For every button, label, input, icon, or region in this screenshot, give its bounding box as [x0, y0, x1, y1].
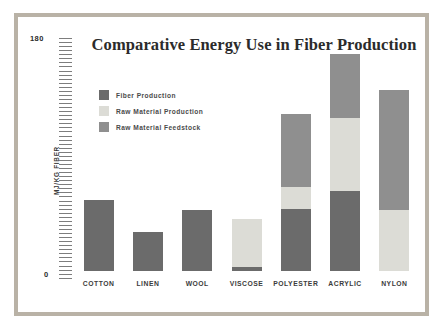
y-axis-tick	[59, 115, 72, 116]
y-axis-tick	[59, 213, 72, 214]
y-axis-tick	[59, 123, 72, 124]
y-axis-tick	[59, 136, 72, 137]
bar-segment	[330, 191, 360, 271]
y-axis-tick	[59, 241, 72, 242]
y-axis-tick	[59, 257, 72, 258]
y-axis-max-tick-label: 180	[30, 34, 44, 43]
y-axis-tick	[59, 38, 72, 39]
bar-column: ACRYLIC	[330, 54, 360, 271]
bar-segment	[281, 209, 311, 271]
x-axis-tick-label: COTTON	[83, 280, 115, 287]
bar-segment	[379, 90, 409, 210]
bar-column: VISCOSE	[232, 219, 262, 271]
y-axis-tick	[59, 79, 72, 80]
y-axis-tick	[59, 46, 72, 47]
y-axis-tick	[59, 156, 72, 157]
y-axis-tick	[59, 83, 72, 84]
bar-segment	[281, 114, 311, 186]
y-axis-tick	[59, 225, 72, 226]
chart-frame: Comparative Energy Use in Fiber Producti…	[14, 13, 429, 316]
y-axis-tick	[59, 217, 72, 218]
y-axis-tick	[59, 188, 72, 189]
y-axis-tick	[59, 42, 72, 43]
y-axis-tick	[59, 119, 72, 120]
bar-segment	[84, 200, 114, 271]
y-axis-min-tick-label: 0	[44, 270, 48, 279]
y-axis-tick	[59, 107, 72, 108]
y-axis-tick	[59, 274, 72, 275]
y-axis-tick	[59, 278, 72, 279]
x-axis-tick-label: POLYESTER	[273, 280, 318, 287]
bar-column: LINEN	[133, 232, 163, 271]
y-axis-tick	[59, 221, 72, 222]
y-axis-tick	[59, 209, 72, 210]
bar-segment	[330, 118, 360, 190]
y-axis-tick	[59, 148, 72, 149]
y-axis-tick	[59, 184, 72, 185]
x-axis-tick-label: ACRYLIC	[328, 280, 361, 287]
y-axis-tick-ladder	[59, 38, 72, 279]
bar-column: POLYESTER	[281, 114, 311, 271]
y-axis-tick	[59, 261, 72, 262]
chart-canvas: Comparative Energy Use in Fiber Producti…	[18, 17, 425, 312]
y-axis-tick	[59, 233, 72, 234]
y-axis-tick	[59, 205, 72, 206]
y-axis-tick	[59, 58, 72, 59]
x-axis-tick-label: WOOL	[186, 280, 209, 287]
y-axis-tick	[59, 201, 72, 202]
y-axis-tick	[59, 95, 72, 96]
y-axis-tick	[59, 172, 72, 173]
bar-segment	[232, 267, 262, 271]
y-axis-tick	[59, 127, 72, 128]
bar-column: COTTON	[84, 200, 114, 271]
bar-segment	[232, 219, 262, 267]
y-axis-tick	[59, 75, 72, 76]
y-axis-tick	[59, 196, 72, 197]
y-axis-tick	[59, 168, 72, 169]
y-axis-tick	[59, 62, 72, 63]
y-axis-tick	[59, 237, 72, 238]
y-axis-tick	[59, 192, 72, 193]
y-axis-tick	[59, 103, 72, 104]
bar-segment	[379, 210, 409, 271]
y-axis-tick	[59, 111, 72, 112]
bar-column: NYLON	[379, 90, 409, 271]
x-axis-tick-label: NYLON	[381, 280, 407, 287]
x-axis-tick-label: LINEN	[136, 280, 159, 287]
y-axis-tick	[59, 87, 72, 88]
y-axis-tick	[59, 160, 72, 161]
bar-column: WOOL	[182, 210, 212, 271]
y-axis-tick	[59, 266, 72, 267]
bar-segment	[133, 232, 163, 271]
y-axis-tick	[59, 253, 72, 254]
y-axis-tick	[59, 50, 72, 51]
x-axis-tick-label: VISCOSE	[230, 280, 264, 287]
y-axis-tick	[59, 91, 72, 92]
y-axis-tick	[59, 54, 72, 55]
y-axis-tick	[59, 249, 72, 250]
y-axis-tick	[59, 71, 72, 72]
bar-segment	[330, 54, 360, 119]
y-axis-tick	[59, 270, 72, 271]
bar-segment	[182, 210, 212, 271]
y-axis-tick	[59, 180, 72, 181]
y-axis-tick	[59, 66, 72, 67]
y-axis-tick	[59, 131, 72, 132]
y-axis-tick	[59, 176, 72, 177]
y-axis-tick	[59, 164, 72, 165]
bar-plot-area: COTTONLINENWOOLVISCOSEPOLYESTERACRYLICNY…	[74, 38, 419, 271]
y-axis-tick	[59, 99, 72, 100]
bar-segment	[281, 187, 311, 209]
y-axis-tick	[59, 245, 72, 246]
y-axis-tick	[59, 229, 72, 230]
y-axis-tick	[59, 152, 72, 153]
y-axis-tick	[59, 140, 72, 141]
y-axis-tick	[59, 144, 72, 145]
